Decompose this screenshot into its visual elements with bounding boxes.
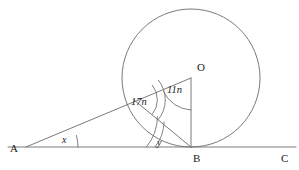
label-A: A xyxy=(10,142,18,154)
angle-label-11n: 11n xyxy=(167,84,182,95)
angle-arc-17n-outer xyxy=(158,80,165,119)
label-B: B xyxy=(193,152,200,164)
angle-label-x: x xyxy=(61,134,67,145)
line-PB xyxy=(134,100,191,147)
angle-arc-17n-inner xyxy=(152,85,157,114)
angle-arc-x xyxy=(77,136,79,148)
label-C: C xyxy=(281,152,288,164)
geometry-canvas: A B C O x 17n 11n y xyxy=(0,0,299,170)
geometry-figure: A B C O x 17n 11n y xyxy=(0,0,299,170)
angle-label-17n: 17n xyxy=(131,96,147,107)
angle-label-y: y xyxy=(156,137,162,148)
label-O: O xyxy=(197,61,205,73)
